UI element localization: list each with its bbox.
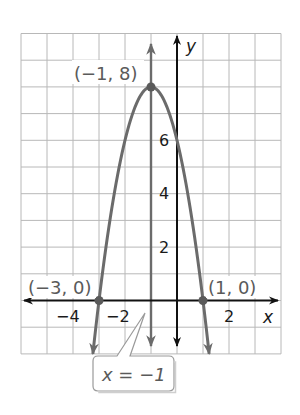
y-axis-label: y xyxy=(185,36,197,56)
root-right-label: (1, 0) xyxy=(208,277,256,298)
y-tick-4: 4 xyxy=(159,184,169,203)
callout-label: x = −1 xyxy=(101,364,166,385)
vertex-point xyxy=(147,83,156,92)
y-tick-2: 2 xyxy=(159,238,169,257)
x-tick-2: 2 xyxy=(224,307,234,326)
x-tick-neg4: −4 xyxy=(56,307,80,326)
x-tick-neg2: −2 xyxy=(106,307,130,326)
parabola-graph: (−1, 8) (−3, 0) (1, 0) −4 −2 2 2 4 6 x y… xyxy=(0,0,300,415)
y-tick-6: 6 xyxy=(159,131,169,150)
vertex-label: (−1, 8) xyxy=(74,63,137,84)
x-axis-label: x xyxy=(262,307,274,327)
root-left-label: (−3, 0) xyxy=(28,277,91,298)
